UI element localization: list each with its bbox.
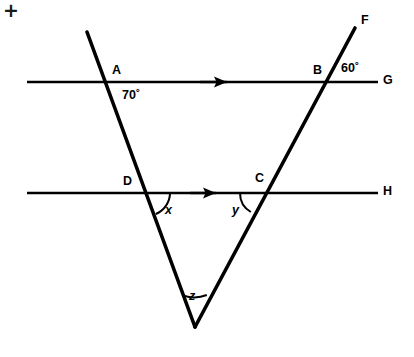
label-angle-z: z — [189, 290, 195, 303]
label-angle-70: 70˚ — [122, 89, 140, 102]
angle-arc-y — [240, 193, 251, 212]
label-point-g: G — [383, 74, 393, 87]
label-point-c: C — [255, 172, 264, 185]
geometry-canvas — [0, 0, 414, 357]
label-point-f: F — [361, 14, 369, 27]
label-angle-60: 60˚ — [341, 62, 359, 75]
line-right-transversal — [195, 28, 355, 327]
line-left-transversal — [87, 32, 195, 327]
label-point-d: D — [123, 175, 132, 188]
geometry-figure: + A 70˚ B 60˚ F G D C H x — [0, 0, 414, 357]
label-point-a: A — [112, 64, 121, 77]
label-angle-x: x — [165, 204, 172, 217]
label-angle-y: y — [232, 204, 239, 217]
label-point-b: B — [313, 64, 322, 77]
label-point-h: H — [383, 185, 392, 198]
